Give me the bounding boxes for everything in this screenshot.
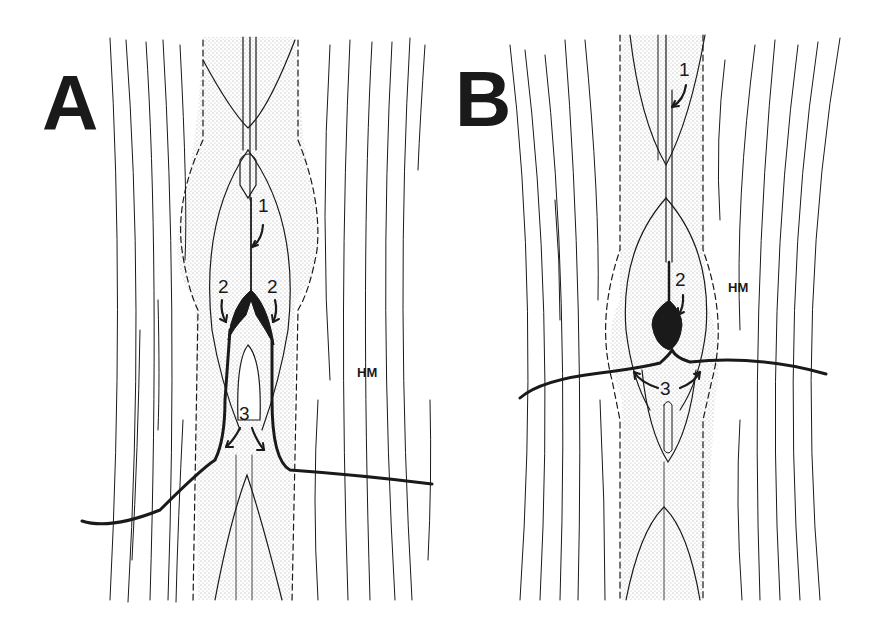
panel-a-label-2-left: 2 [218, 277, 229, 296]
panel-b-label-hm: HM [728, 281, 748, 294]
panel-a-letter: A [42, 64, 98, 142]
panel-b-label-1: 1 [679, 60, 690, 79]
figure-canvas [0, 0, 876, 630]
panel-a-fibers-right [315, 38, 431, 600]
panel-b [510, 35, 840, 600]
panel-a-label-1: 1 [258, 196, 269, 215]
panel-a-label-3: 3 [239, 404, 250, 423]
panel-b-fibers-right [718, 38, 840, 600]
panel-a-label-2-right: 2 [267, 277, 278, 296]
panel-b-label-3: 3 [660, 379, 671, 398]
panel-b-label-2: 2 [675, 270, 686, 289]
panel-b-letter: B [455, 60, 511, 138]
panel-a-fibers-left [110, 38, 186, 602]
panel-b-fibers-left [510, 40, 605, 600]
panel-a-label-hm: HM [357, 366, 377, 379]
panel-a [82, 37, 432, 602]
